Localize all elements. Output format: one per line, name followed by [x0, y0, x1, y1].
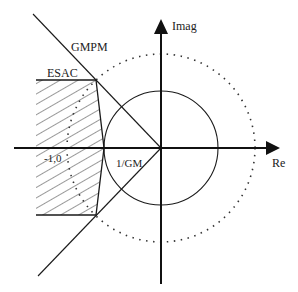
nyquist-diagram: Imag Re GMPM ESAC -1,0 1/GM — [0, 0, 298, 292]
real-axis-label: Re — [272, 156, 285, 170]
esac-label: ESAC — [47, 66, 78, 80]
gain-margin-label: 1/GM — [116, 157, 143, 169]
imag-axis — [154, 19, 168, 284]
gmpm-label: GMPM — [71, 40, 108, 54]
real-axis-arrow-icon — [266, 141, 280, 155]
imag-axis-label: Imag — [172, 19, 197, 33]
imag-axis-arrow-icon — [154, 19, 168, 34]
critical-point-label: -1,0 — [44, 152, 62, 164]
